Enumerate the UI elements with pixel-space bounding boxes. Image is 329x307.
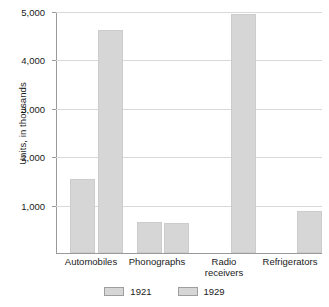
bar-chart: Units, in thousands 5,000 4,000 3,000 2,… — [0, 0, 329, 307]
y-tick-label-3000: 3,000 — [0, 103, 45, 114]
x-category-label-refrigerators: Refrigerators — [245, 257, 329, 268]
y-tick-label-5000: 5,000 — [0, 7, 45, 18]
legend-swatch-icon-1929 — [178, 287, 198, 296]
bar-phonographs-1929 — [164, 223, 189, 254]
tick-mark-3000 — [52, 109, 56, 110]
y-tick-label-2000: 2,000 — [0, 152, 45, 163]
bar-refrigerators-1929 — [297, 211, 322, 253]
legend-item-1921: 1921 — [104, 286, 151, 297]
legend: 1921 1929 — [0, 286, 329, 297]
legend-label-1921: 1921 — [130, 286, 151, 297]
tick-mark-5000 — [52, 12, 56, 13]
gridline-1000 — [56, 206, 322, 207]
y-tick-label-4000: 4,000 — [0, 55, 45, 66]
legend-item-1929: 1929 — [178, 286, 225, 297]
gridline-2000 — [56, 157, 322, 158]
legend-swatch-icon-1921 — [104, 287, 124, 296]
tick-mark-2000 — [52, 157, 56, 158]
tick-mark-4000 — [52, 60, 56, 61]
legend-label-1929: 1929 — [204, 286, 225, 297]
gridline-5000 — [56, 12, 322, 13]
y-axis-line — [56, 12, 57, 254]
plot-area: 5,000 4,000 3,000 2,000 1,000 — [56, 12, 322, 254]
bar-automobiles-1921 — [70, 179, 95, 253]
bar-automobiles-1929 — [98, 30, 123, 253]
bar-phonographs-1921 — [137, 222, 162, 253]
tick-mark-1000 — [52, 206, 56, 207]
gridline-3000 — [56, 109, 322, 110]
gridline-4000 — [56, 60, 322, 61]
x-axis-line — [56, 253, 322, 254]
y-tick-label-1000: 1,000 — [0, 200, 45, 211]
bar-radio-receivers-1929 — [231, 14, 256, 253]
